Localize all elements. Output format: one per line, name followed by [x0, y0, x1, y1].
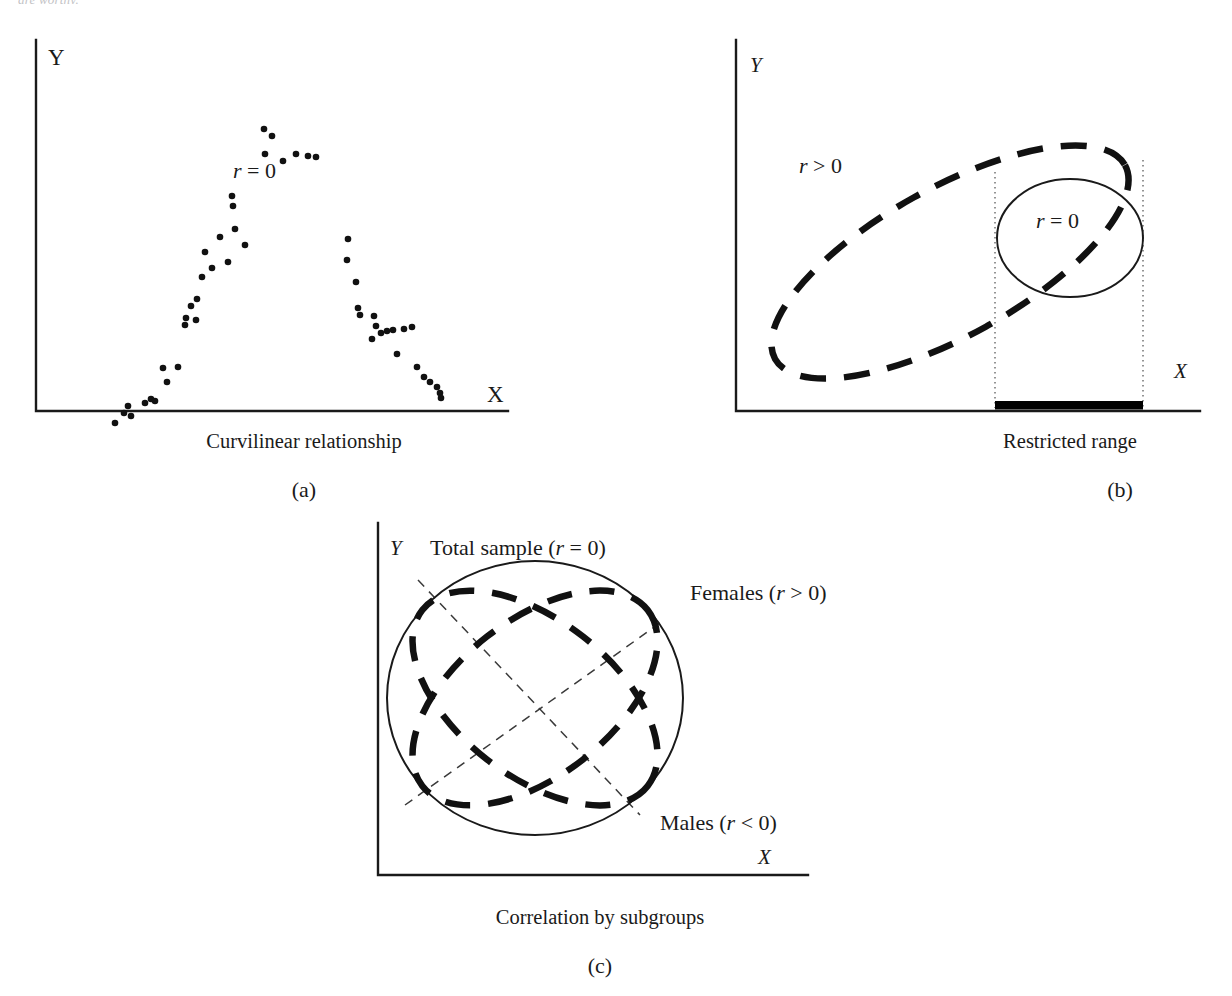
panel-c-females-ellipse: [374, 548, 695, 847]
panel-b-letter: (b): [1020, 477, 1220, 503]
panel-c-x-axis-label: X: [757, 845, 772, 869]
panel-c-letter: (c): [400, 953, 800, 979]
panel-a-scatter-points: [112, 126, 445, 427]
panel-c-females-trend-line: [405, 623, 660, 805]
scatter-point: [313, 154, 320, 161]
panel-c-males-label: Males (r < 0): [660, 810, 777, 835]
panel-a-axes: [36, 40, 508, 411]
scatter-point: [369, 336, 376, 343]
scatter-point: [434, 384, 441, 391]
panel-c-males-ellipse: [374, 548, 695, 847]
panel-b-full-sample-ellipse: [739, 100, 1161, 423]
panel-b-x-axis-label: X: [1173, 359, 1188, 383]
scatter-point: [183, 315, 190, 322]
panel-a-r-symbol: r: [233, 158, 242, 183]
scatter-point: [353, 279, 360, 286]
scatter-point: [164, 379, 171, 386]
scatter-point: [229, 193, 236, 200]
panel-b-caption: Restricted range: [920, 430, 1220, 453]
scatter-point: [125, 403, 132, 410]
scatter-point: [280, 158, 287, 165]
panel-b-restricted-ellipse: [997, 179, 1143, 297]
scatter-point: [112, 420, 119, 427]
scatter-point: [232, 226, 239, 233]
figure-root: are worthy. Y X r = 0 Curvilinear relati…: [0, 0, 1232, 996]
scatter-point: [390, 327, 397, 334]
scatter-point: [421, 374, 428, 381]
panel-c-total-sample-label: Total sample (r = 0): [430, 535, 606, 560]
panel-b-y-axis-label: Y: [750, 53, 764, 77]
scatter-point: [345, 236, 352, 243]
scatter-point: [394, 351, 401, 358]
scatter-point: [182, 322, 189, 329]
scatter-point: [378, 330, 385, 337]
scatter-point: [188, 303, 195, 310]
scatter-point: [199, 274, 206, 281]
scatter-point: [242, 242, 249, 249]
scatter-point: [142, 400, 149, 407]
scatter-point: [357, 312, 364, 319]
scatter-point: [373, 323, 380, 330]
panel-a-r-annotation: r = 0: [233, 158, 276, 183]
scatter-point: [261, 126, 268, 133]
scatter-point: [409, 324, 416, 331]
panel-c-y-axis-label: Y: [390, 536, 404, 560]
scatter-point: [230, 203, 237, 210]
scatter-point: [355, 305, 362, 312]
panel-a-caption: Curvilinear relationship: [104, 430, 504, 453]
panel-c-females-label: Females (r > 0): [690, 580, 826, 605]
panel-c-males-trend-line: [418, 580, 640, 815]
panel-a-curvilinear: Y X r = 0: [0, 30, 540, 430]
panel-b-restricted-label: r = 0: [1036, 208, 1079, 233]
scatter-point: [160, 365, 167, 372]
scatter-point: [121, 410, 128, 417]
clipped-header-text: are worthy.: [18, 0, 79, 4]
scatter-point: [427, 379, 434, 386]
scatter-point: [293, 151, 300, 158]
scatter-point: [414, 364, 421, 371]
panel-b-svg: Y X r > 0 r = 0: [700, 30, 1220, 430]
scatter-point: [175, 364, 182, 371]
panel-c-caption: Correlation by subgroups: [400, 906, 800, 929]
panel-c-subgroups: Y X Total sample (r = 0) Females (r > 0)…: [330, 515, 900, 905]
panel-c-svg: Y X Total sample (r = 0) Females (r > 0)…: [330, 515, 900, 905]
panel-b-restricted-range-bar: [995, 401, 1143, 410]
scatter-point: [401, 326, 408, 333]
panel-a-letter: (a): [104, 477, 504, 503]
panel-a-svg: Y X r = 0: [0, 30, 540, 430]
panel-a-x-axis-label: X: [487, 382, 504, 407]
scatter-point: [217, 234, 224, 241]
panel-b-axes: [736, 40, 1200, 411]
scatter-point: [128, 413, 135, 420]
scatter-point: [438, 395, 445, 402]
scatter-point: [305, 153, 312, 160]
scatter-point: [194, 296, 201, 303]
panel-b-full-sample-label: r > 0: [799, 153, 842, 178]
scatter-point: [262, 151, 269, 158]
scatter-point: [152, 398, 159, 405]
scatter-point: [269, 133, 276, 140]
scatter-point: [371, 313, 378, 320]
panel-a-y-axis-label: Y: [48, 45, 65, 70]
scatter-point: [225, 259, 232, 266]
scatter-point: [344, 257, 351, 264]
scatter-point: [202, 249, 209, 256]
panel-b-restricted-range: Y X r > 0 r = 0: [700, 30, 1220, 430]
scatter-point: [193, 317, 200, 324]
scatter-point: [384, 328, 391, 335]
scatter-point: [209, 265, 216, 272]
